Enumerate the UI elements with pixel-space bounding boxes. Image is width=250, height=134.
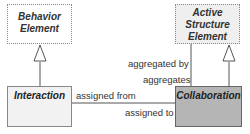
interaction-box[interactable]: Interaction [7,86,72,127]
active-structure-label-3: Element [176,31,239,43]
collaboration-label: Collaboration [176,90,241,102]
behavior-element-box[interactable]: Behavior Element [7,4,72,44]
active-structure-label-2: Structure [176,19,239,31]
active-structure-element-box[interactable]: Active Structure Element [175,4,240,44]
assigned-from-label: assigned from [76,90,136,101]
behavior-element-label-1: Behavior [8,11,71,23]
active-structure-label-1: Active [176,7,239,19]
interaction-label: Interaction [8,90,71,102]
specialization-arrow-icon [223,45,235,61]
aggregated-by-label: aggregated by [128,58,189,69]
specialization-arrow-icon [34,45,46,61]
collaboration-box[interactable]: Collaboration [175,86,242,127]
assigned-to-label: assigned to [125,107,174,118]
behavior-element-label-2: Element [8,23,71,35]
aggregates-label: aggregates [143,74,191,85]
